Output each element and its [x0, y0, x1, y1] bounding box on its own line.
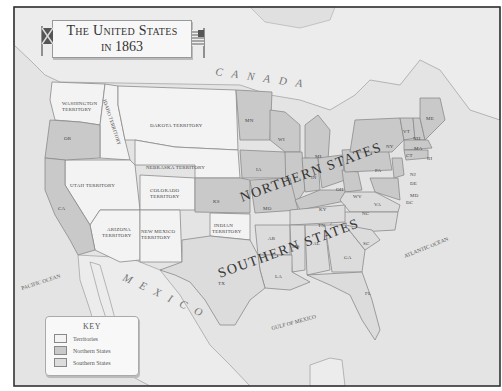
union-flag-icon [192, 28, 206, 58]
state-or [45, 120, 100, 160]
state-label-ia: IA [256, 167, 262, 172]
state-label-tx: TX [218, 281, 225, 286]
state-label-ks: KS [213, 199, 220, 204]
state-label-pa: PA [375, 168, 382, 173]
indian-territory-label-2: TERRITORY [212, 229, 242, 234]
state-label-mn: MN [245, 118, 254, 123]
state-label-ri: RI [427, 156, 433, 161]
state-label-ct: CT [406, 153, 413, 158]
state-label-nh: NH [413, 136, 421, 141]
state-label-or: OR [64, 136, 72, 141]
state-label-va: VA [374, 202, 381, 207]
map-title-cartouche: The United States in 1863 [52, 20, 192, 58]
map-title-line1: The United States [53, 23, 191, 39]
state-label-ga: GA [344, 255, 352, 260]
state-label-de: DE [410, 181, 417, 186]
map-key-legend: KEY Territories Northern States Southern… [45, 316, 139, 376]
state-label-vt: VT [403, 129, 410, 134]
state-label-wv: WV [353, 194, 362, 199]
state-label-ms: MS [292, 244, 300, 249]
state-label-fl: FL [365, 291, 371, 296]
new-mexico-territory-label-2: TERRITORY [141, 235, 171, 240]
washington-territory-label: WASHINGTON [62, 101, 97, 106]
state-nj [392, 158, 404, 178]
state-label-ar: AR [268, 236, 276, 241]
state-label-dc: DC [406, 200, 414, 205]
state-label-mi: MI [315, 154, 322, 159]
state-label-la: LA [275, 274, 282, 279]
key-row-northern-states: Northern States [54, 346, 138, 355]
state-label-wi: WI [278, 137, 285, 142]
state-label-md: MD [410, 193, 419, 198]
arizona-territory-label-2: TERRITORY [102, 233, 132, 238]
state-mn [236, 90, 272, 140]
map-title-line2: in 1863 [53, 39, 191, 55]
state-label-ma: MA [414, 146, 423, 151]
key-label-northern-states: Northern States [73, 348, 111, 354]
colorado-territory-label: COLORADO [150, 188, 180, 193]
state-label-sc: SC [363, 241, 370, 246]
southern-states-swatch [54, 358, 67, 367]
state-label-nj: NJ [410, 172, 416, 177]
confederate-flag-icon [40, 26, 54, 56]
state-label-ca: CA [58, 206, 66, 211]
nebraska-territory-label: NEBRASKA TERRITORY [146, 165, 205, 170]
dakota-territory-label: DAKOTA TERRITORY [150, 123, 203, 128]
northern-states-swatch [54, 346, 67, 355]
arizona-territory-label: ARIZONA [107, 227, 131, 232]
state-label-mo: MO [263, 206, 272, 211]
new-mexico-territory-label: NEW MEXICO [141, 229, 175, 234]
state-label-ky: KY [319, 207, 327, 212]
colorado-territory-label-2: TERRITORY [150, 194, 180, 199]
key-row-southern-states: Southern States [54, 358, 138, 367]
key-title: KEY [46, 322, 138, 331]
washington-territory-label-2: TERRITORY [62, 107, 92, 112]
state-label-me: ME [426, 116, 434, 121]
key-label-territories: Territories [73, 336, 98, 342]
state-label-al: AL [313, 241, 320, 246]
state-label-oh: OH [336, 187, 344, 192]
state-label-nc: NC [362, 211, 370, 216]
state-label-in: IN [311, 175, 317, 180]
state-label-ny: NY [386, 144, 394, 149]
state-label-il: IL [286, 177, 291, 182]
key-row-territories: Territories [54, 334, 138, 343]
indian-territory-label: INDIAN [214, 223, 233, 228]
utah-territory-label: UTAH TERRITORY [70, 183, 115, 188]
territories-swatch [54, 334, 67, 343]
key-label-southern-states: Southern States [73, 360, 111, 366]
state-label-tn: TN [318, 223, 325, 228]
